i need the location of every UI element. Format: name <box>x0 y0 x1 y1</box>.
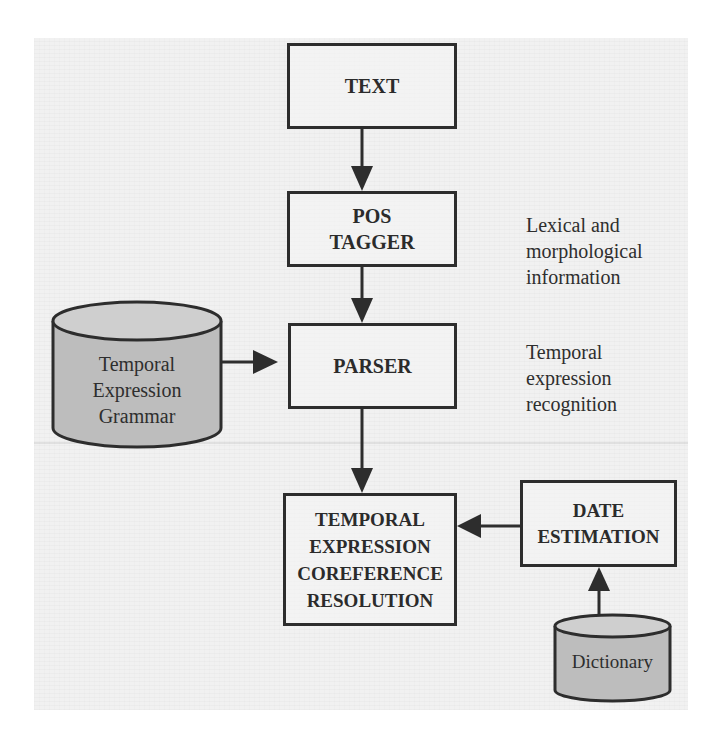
arrow-pos-to-parser <box>351 267 373 323</box>
arrow-text-to-pos <box>351 129 373 191</box>
node-pos-tagger-line-2: TAGGER <box>329 229 414 255</box>
annotation-lexical-line-3: information <box>526 264 643 290</box>
annotation-temporal-recognition: Temporal expression recognition <box>526 339 617 417</box>
node-parser: PARSER <box>288 323 457 409</box>
annotation-recognition-line-2: expression <box>526 365 617 391</box>
node-coreference-line-3: COREFERENCE <box>297 560 443 587</box>
grammar-line-2: Expression <box>93 377 182 403</box>
node-pos-tagger-line-1: POS <box>353 203 392 229</box>
node-date-estimation-line-2: ESTIMATION <box>537 524 659 550</box>
annotation-recognition-line-1: Temporal <box>526 339 617 365</box>
arrow-date-to-coreference <box>457 514 520 538</box>
annotation-lexical-line-2: morphological <box>526 238 643 264</box>
arrow-dictionary-to-date <box>588 567 610 615</box>
dictionary-database-label: Dictionary <box>555 640 670 684</box>
arrow-grammar-to-parser <box>221 350 278 374</box>
grammar-database-label: Temporal Expression Grammar <box>53 340 221 440</box>
node-coreference-line-1: TEMPORAL <box>315 506 425 533</box>
node-date-estimation: DATE ESTIMATION <box>520 480 677 567</box>
node-coreference-line-4: RESOLUTION <box>307 587 434 614</box>
annotation-lexical-line-1: Lexical and <box>526 212 643 238</box>
node-parser-label: PARSER <box>333 353 412 379</box>
node-date-estimation-line-1: DATE <box>573 498 624 524</box>
node-text: TEXT <box>287 43 457 129</box>
arrow-parser-to-coreference <box>351 409 373 493</box>
grammar-line-3: Grammar <box>99 403 176 429</box>
annotation-recognition-line-3: recognition <box>526 391 617 417</box>
annotation-lexical-morphological: Lexical and morphological information <box>526 212 643 290</box>
node-text-label: TEXT <box>345 73 399 99</box>
grammar-line-1: Temporal <box>99 351 175 377</box>
node-pos-tagger: POS TAGGER <box>287 191 457 267</box>
dictionary-line-1: Dictionary <box>572 649 653 675</box>
node-coreference-line-2: EXPRESSION <box>309 533 430 560</box>
node-coreference-resolution: TEMPORAL EXPRESSION COREFERENCE RESOLUTI… <box>283 493 457 626</box>
